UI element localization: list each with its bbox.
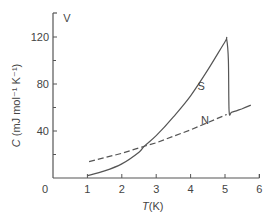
- y-tick-label: 40: [37, 125, 49, 137]
- x-tick-label: 2: [119, 183, 125, 195]
- annotation-v: V: [63, 12, 71, 24]
- y-tick-label: 120: [31, 31, 49, 43]
- series-s-curve: [87, 37, 250, 175]
- x-tick-label: 6: [256, 183, 262, 195]
- x-tick-label: 4: [188, 183, 194, 195]
- annotation-s: S: [197, 80, 204, 92]
- axes: 01234564080120: [31, 13, 263, 195]
- specific-heat-chart: 01234564080120 VSNT(K)C (mJ mol⁻¹ K⁻¹): [0, 0, 277, 215]
- x-axis-label: T(K): [142, 200, 163, 212]
- x-tick-label: 3: [153, 183, 159, 195]
- x-tick-label: 5: [222, 183, 228, 195]
- x-tick-label: 0: [42, 183, 48, 195]
- y-axis-label: C (mJ mol⁻¹ K⁻¹): [10, 64, 22, 148]
- x-tick-label: 1: [84, 183, 90, 195]
- annotation-n: N: [201, 114, 209, 126]
- y-tick-label: 80: [37, 78, 49, 90]
- curves: [87, 37, 250, 175]
